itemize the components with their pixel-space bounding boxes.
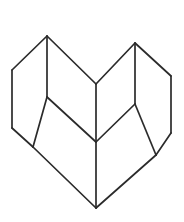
figure-faces: [12, 36, 171, 208]
heart-solid-figure: [0, 0, 184, 222]
figure-canvas: [0, 0, 184, 222]
